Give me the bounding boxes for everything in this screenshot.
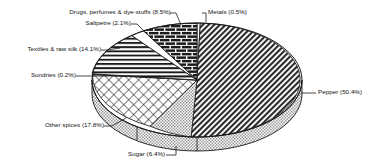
label-textiles-raw-silk: Textiles & raw silk (14.1%) xyxy=(4,46,101,52)
leader-metals xyxy=(202,13,206,22)
label-pepper: Pepper (50.4%) xyxy=(318,89,362,95)
label-drugs-perfumes-dyestuffs: Drugs, perfumes & dye-stuffs (8.5%) xyxy=(26,9,171,15)
label-saltpetre: Saltpetre (2.1%) xyxy=(46,20,131,26)
label-sugar: Sugar (6.4%) xyxy=(128,151,165,157)
label-sundries: Sundries (0.2%) xyxy=(16,72,76,78)
leader-drugs xyxy=(170,13,181,25)
pie-chart-figure: Drugs, perfumes & dye-stuffs (8.5%) Salt… xyxy=(0,0,381,168)
label-metals: Metals (0.5%) xyxy=(208,9,247,15)
label-other-spices: Other spices (17.8%) xyxy=(22,122,104,128)
